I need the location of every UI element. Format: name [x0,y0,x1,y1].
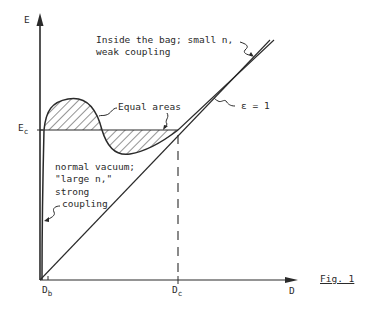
ec-label-main: E [18,122,24,133]
y-axis-arrow-icon [37,13,44,26]
vacuum-annotation-line3: strong [55,186,89,198]
vacuum-annotation-line2: "large n," [55,173,112,185]
inside-bag-annotation-line1: Inside the bag; small n, [96,34,233,46]
epsilon-one-line [40,40,274,280]
diagram-canvas [0,0,371,314]
epsilon-pointer [214,98,235,106]
dc-label-sub: c [178,289,183,298]
figure-caption: Fig. 1 [320,273,354,285]
dc-label-main: D [172,284,178,295]
vacuum-annotation-line1: normal vacuum; [55,161,135,173]
inside-bag-annotation-line2: weak coupling [96,46,170,58]
x-axis-arrow-icon [285,277,298,283]
equal-areas-pointer-upper [99,108,117,116]
y-axis-label: E [24,14,30,26]
db-label-main: D [42,284,48,295]
upper-hatched-area [40,90,110,135]
vacuum-annotation-line4: coupling [62,198,108,210]
x-axis [40,277,298,283]
ec-label: Ec [18,122,28,135]
db-label-sub: b [48,289,53,298]
equal-areas-annotation: Equal areas [118,101,181,113]
ec-label-sub: c [24,127,29,136]
db-label: Db [42,284,52,297]
epsilon-annotation: ε = 1 [241,100,270,112]
dc-label: Dc [172,284,182,297]
x-axis-label: D [289,285,295,297]
